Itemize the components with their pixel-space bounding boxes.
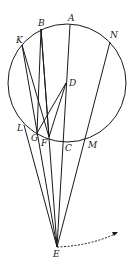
label-A: A bbox=[68, 14, 75, 23]
label-E: E bbox=[53, 250, 60, 259]
dashed-rotation-arrow bbox=[57, 233, 117, 247]
label-D: D bbox=[69, 79, 76, 88]
label-N: N bbox=[110, 31, 118, 40]
label-C: C bbox=[65, 144, 72, 153]
segment-DG bbox=[37, 83, 66, 133]
label-G: G bbox=[31, 134, 38, 143]
label-L: L bbox=[17, 124, 23, 133]
segment-BG bbox=[37, 29, 41, 133]
segment-AE bbox=[57, 25, 70, 247]
segment-BF bbox=[41, 29, 49, 137]
label-K: K bbox=[16, 36, 23, 45]
label-F: F bbox=[41, 139, 47, 148]
label-M: M bbox=[88, 141, 97, 150]
geometry-diagram: A B K N D L G F C M E bbox=[0, 0, 135, 278]
label-B: B bbox=[38, 19, 45, 28]
